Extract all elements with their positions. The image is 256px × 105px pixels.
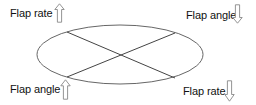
label-bottom-left: Flap angle bbox=[10, 83, 60, 95]
flap-diagram: Flap rate Flap angle Flap angle Flap rat… bbox=[0, 0, 256, 105]
diagonal-line-ascending bbox=[67, 33, 175, 77]
label-top-left: Flap rate bbox=[10, 7, 53, 19]
arrow-up-icon bbox=[60, 79, 71, 100]
label-top-right: Flap angle bbox=[186, 9, 236, 21]
label-bottom-right: Flap rate bbox=[183, 85, 226, 97]
arrow-down-icon bbox=[224, 80, 235, 102]
arrow-down-icon bbox=[232, 4, 243, 24]
arrow-up-icon bbox=[54, 3, 65, 23]
